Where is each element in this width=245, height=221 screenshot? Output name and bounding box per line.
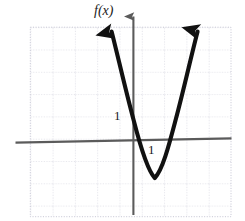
grid: [30, 27, 231, 217]
x-axis-tick-label-one: 1: [148, 142, 155, 158]
y-axis-function-label: f(x): [94, 3, 113, 19]
parabola-plot-svg: [0, 0, 245, 221]
graph-figure: f(x) 1 1: [0, 0, 245, 221]
y-axis-tick-label-one: 1: [114, 108, 121, 124]
